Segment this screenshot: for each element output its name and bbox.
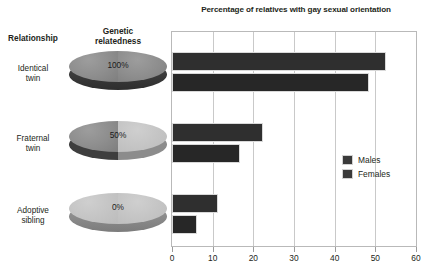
- bar-adoptive-sibling-males: [172, 194, 218, 213]
- x-axis-tick-label: 10: [201, 253, 225, 263]
- row-label-line1: Fraternal: [2, 134, 64, 144]
- relatedness-disc-identical-twin: 100%: [69, 51, 167, 97]
- chart-legend: Males Females: [342, 153, 390, 181]
- relatedness-disc-fraternal-twin: 50%: [69, 121, 167, 167]
- legend-item-males: Males: [342, 153, 390, 167]
- x-axis-tick: [253, 247, 254, 252]
- legend-item-females: Females: [342, 167, 390, 181]
- relatedness-percent-label: 50%: [69, 130, 167, 140]
- x-axis-tick: [335, 247, 336, 252]
- x-axis-tick-label: 50: [363, 253, 387, 263]
- x-axis-tick-label: 20: [241, 253, 265, 263]
- x-axis-tick: [213, 247, 214, 252]
- row-label-adoptive-sibling: Adoptive sibling: [2, 206, 64, 225]
- x-axis-tick: [294, 247, 295, 252]
- x-axis-tick-label: 40: [323, 253, 347, 263]
- legend-swatch-females: [342, 169, 353, 179]
- bar-chart-plot-area: [171, 31, 417, 247]
- row-label-line1: Identical: [2, 64, 64, 74]
- legend-label-males: Males: [358, 155, 380, 165]
- bar-identical-twin-males: [172, 52, 386, 71]
- bar-identical-twin-females: [172, 73, 369, 92]
- relatedness-disc-adoptive-sibling: 0%: [69, 193, 167, 239]
- legend-swatch-males: [342, 155, 353, 165]
- bar-fraternal-twin-females: [172, 144, 240, 163]
- x-axis-tick-label: 60: [404, 253, 425, 263]
- row-label-line2: twin: [2, 144, 64, 154]
- relatedness-percent-label: 0%: [69, 202, 167, 212]
- column-header-line1: Genetic: [66, 26, 170, 36]
- figure-root: Percentage of relatives with gay sexual …: [0, 0, 425, 272]
- x-axis-tick-label: 30: [282, 253, 306, 263]
- x-axis-tick: [375, 247, 376, 252]
- row-label-line1: Adoptive: [2, 206, 64, 216]
- x-axis-tick-label: 0: [160, 253, 184, 263]
- relatedness-percent-label: 100%: [69, 60, 167, 70]
- x-axis-tick: [416, 247, 417, 252]
- legend-label-females: Females: [358, 169, 390, 179]
- chart-title: Percentage of relatives with gay sexual …: [171, 5, 421, 14]
- row-label-line2: sibling: [2, 216, 64, 226]
- row-label-identical-twin: Identical twin: [2, 64, 64, 83]
- bar-adoptive-sibling-females: [172, 215, 197, 234]
- x-axis-tick: [172, 247, 173, 252]
- row-label-fraternal-twin: Fraternal twin: [2, 134, 64, 153]
- column-header-genetic-relatedness: Genetic relatedness: [66, 26, 170, 46]
- column-header-relationship: Relationship: [2, 33, 64, 43]
- column-header-line2: relatedness: [66, 36, 170, 46]
- bar-fraternal-twin-males: [172, 123, 263, 142]
- row-label-line2: twin: [2, 74, 64, 84]
